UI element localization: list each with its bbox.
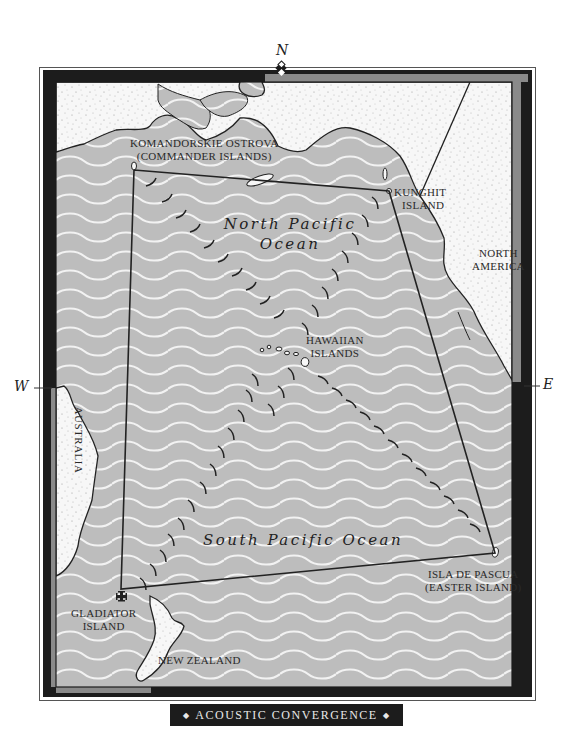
label-easter-line2: (Easter Island) [425, 581, 521, 594]
label-komandorskie: Komandorskie Ostrova (Commander Islands) [130, 137, 279, 163]
label-kunghit-line2: Island [394, 199, 446, 212]
label-new-zealand: New Zealand [158, 654, 241, 667]
map-canvas [0, 0, 574, 755]
label-south-pacific: South Pacific Ocean [203, 530, 403, 550]
label-gladiator-line1: Gladiator [71, 607, 136, 620]
label-kunghit-line1: Kunghit [394, 186, 446, 199]
label-kunghit: Kunghit Island [394, 186, 446, 212]
map-title: Acoustic Convergence [195, 708, 377, 723]
label-north-america: North America [472, 247, 525, 273]
compass-east-label: E [543, 376, 553, 392]
label-gladiator: Gladiator Island [71, 607, 136, 633]
ornament-left-icon: ◆ [183, 711, 191, 720]
compass-north-label: N [276, 42, 288, 58]
label-gladiator-line2: Island [71, 620, 136, 633]
label-australia: Australia [73, 407, 85, 474]
label-north-pacific-line1: North Pacific [220, 214, 360, 234]
map-title-bar: ◆ Acoustic Convergence ◆ [170, 704, 403, 726]
label-hawaiian-line1: Hawaiian [306, 334, 364, 347]
label-easter-line1: Isla de Pascua [425, 568, 521, 581]
label-easter: Isla de Pascua (Easter Island) [425, 568, 521, 594]
ornament-right-icon: ◆ [383, 711, 391, 720]
label-north-america-line2: America [472, 260, 525, 273]
label-komandorskie-line2: (Commander Islands) [130, 150, 279, 163]
label-north-america-line1: North [472, 247, 525, 260]
label-north-pacific: North Pacific Ocean [220, 214, 360, 254]
label-hawaiian-line2: Islands [306, 347, 364, 360]
commander-islands-marker [132, 162, 137, 170]
label-north-pacific-line2: Ocean [220, 234, 360, 254]
compass-west-label: W [14, 378, 28, 394]
label-hawaiian: Hawaiian Islands [306, 334, 364, 360]
label-komandorskie-line1: Komandorskie Ostrova [130, 137, 279, 150]
map-figure: N W E Komandorskie Ostrova (Commander Is… [0, 0, 574, 755]
